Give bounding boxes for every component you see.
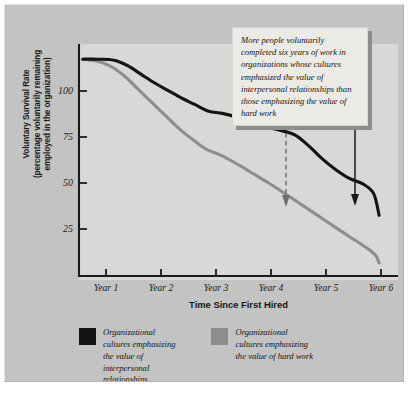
y-axis-title-text: Voluntary Survival Rate (percentage volu… (22, 50, 54, 178)
x-tick-label-year-5: Year 5 (299, 282, 353, 293)
y-tick-label-100: 100 (41, 85, 73, 96)
legend-entry-interpersonal: Organizational cultures emphasizing the … (79, 327, 175, 382)
arrow-to-interpersonal-line (351, 123, 359, 206)
x-tick-label-year-6: Year 6 (354, 282, 404, 293)
legend-entry-hard-work: Organizational cultures emphasizing the … (211, 327, 313, 382)
chart-legend: Organizational cultures emphasizing the … (79, 327, 399, 382)
x-tick-label-year-4: Year 4 (244, 282, 298, 293)
y-axis-title-line-3: employed in the organization) (43, 50, 54, 178)
y-axis-title-line-1: Voluntary Survival Rate (22, 50, 33, 178)
x-tick-label-year-3: Year 3 (189, 282, 243, 293)
legend-swatch-interpersonal (79, 328, 96, 345)
y-tick-label-50: 50 (41, 177, 73, 188)
x-tick-label-year-1: Year 1 (79, 282, 133, 293)
x-axis-ticks (106, 269, 381, 276)
y-axis-ticks (79, 91, 87, 229)
annotation-callout: More people voluntarily completed six ye… (232, 27, 368, 126)
chart-plate: Voluntary Survival Rate (percentage volu… (4, 4, 404, 382)
legend-swatch-hard-work (211, 328, 228, 345)
legend-label-hard-work: Organizational cultures emphasizing the … (235, 327, 313, 363)
y-tick-label-25: 25 (41, 223, 73, 234)
y-tick-label-75: 75 (41, 131, 73, 142)
legend-label-interpersonal: Organizational cultures emphasizing the … (103, 327, 175, 382)
y-axis-title-line-2: (percentage voluntarily remaining (33, 50, 44, 178)
x-axis-title: Time Since First Hired (79, 299, 398, 310)
x-tick-label-year-2: Year 2 (134, 282, 188, 293)
chart-figure: Voluntary Survival Rate (percentage volu… (0, 0, 408, 405)
